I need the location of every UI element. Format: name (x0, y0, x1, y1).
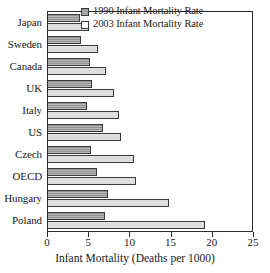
bar-2003 (48, 199, 169, 207)
bar-2003 (48, 67, 106, 75)
x-axis-tick-labels: 0510152025 (47, 237, 253, 251)
bar-1990 (48, 168, 97, 176)
bar-1990 (48, 212, 105, 220)
category-label: Japan (0, 11, 45, 33)
bar-1990 (48, 124, 103, 132)
bar-group (48, 143, 252, 165)
bar-2003 (48, 133, 121, 141)
legend-label-1990: 1990 Infant Mortality Rate (93, 6, 203, 17)
bar-group (48, 209, 252, 231)
legend-swatch-2003-icon (81, 21, 89, 29)
chart-legend: 1990 Infant Mortality Rate 2003 Infant M… (79, 3, 206, 33)
bar-1990 (48, 102, 87, 110)
category-label: Sweden (0, 33, 45, 55)
plot-area (47, 11, 253, 232)
bar-1990 (48, 80, 92, 88)
bar-1990 (48, 14, 80, 22)
bar-1990 (48, 36, 81, 44)
bar-group (48, 187, 252, 209)
bar-group (48, 56, 252, 78)
bar-1990 (48, 190, 108, 198)
bar-2003 (48, 89, 114, 97)
axis-tick-label: 15 (165, 237, 176, 248)
legend-swatch-1990-icon (81, 8, 89, 16)
bar-2003 (48, 155, 134, 163)
bar-group (48, 122, 252, 144)
infant-mortality-bar-chart: JapanSwedenCanadaUKItalyUSCzechOECDHunga… (0, 0, 270, 273)
bar-group (48, 100, 252, 122)
category-label: Poland (0, 210, 45, 232)
axis-tick-label: 0 (44, 237, 50, 248)
legend-label-2003: 2003 Infant Mortality Rate (93, 19, 203, 30)
bar-group (48, 34, 252, 56)
category-label: Canada (0, 55, 45, 77)
category-label: Hungary (0, 188, 45, 210)
bar-group (48, 78, 252, 100)
bar-1990 (48, 58, 90, 66)
bar-2003 (48, 45, 98, 53)
axis-tick-label: 20 (206, 237, 217, 248)
bar-group (48, 165, 252, 187)
axis-tick-label: 10 (124, 237, 135, 248)
legend-item-2003: 2003 Infant Mortality Rate (81, 18, 203, 31)
category-label: UK (0, 77, 45, 99)
bar-groups (48, 12, 252, 231)
category-label: OECD (0, 166, 45, 188)
category-label: US (0, 121, 45, 143)
bar-2003 (48, 221, 205, 229)
legend-item-1990: 1990 Infant Mortality Rate (81, 5, 203, 18)
bar-2003 (48, 111, 119, 119)
category-axis-labels: JapanSwedenCanadaUKItalyUSCzechOECDHunga… (0, 11, 45, 232)
bar-1990 (48, 146, 91, 154)
category-label: Italy (0, 99, 45, 121)
x-axis-title: Infant Mortality (Deaths per 1000) (0, 252, 270, 265)
axis-tick-label: 5 (85, 237, 91, 248)
axis-tick-label: 25 (248, 237, 259, 248)
category-label: Czech (0, 144, 45, 166)
bar-2003 (48, 177, 136, 185)
